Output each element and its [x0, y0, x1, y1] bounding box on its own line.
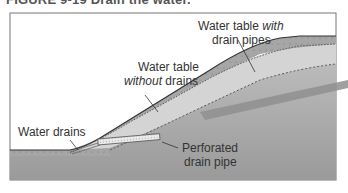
ground-strip: [10, 150, 110, 156]
label-perforated-drain-pipe: Perforated drain pipe: [182, 141, 238, 169]
slope-drainage-diagram: [0, 0, 348, 193]
label-water-table-with-drain-pipes: Water table with drain pipes: [198, 19, 284, 47]
label-water-table-without-drains: Water table without drains: [124, 60, 199, 88]
label-water-drains: Water drains: [18, 125, 86, 139]
